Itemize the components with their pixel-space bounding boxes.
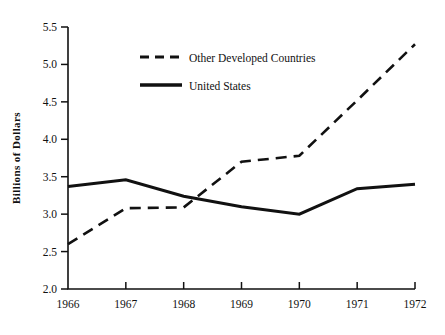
legend-label-2: United States xyxy=(189,80,251,92)
series-line-other-developed-countries xyxy=(68,44,415,244)
y-tick-label: 2.5 xyxy=(43,246,58,258)
chart-container: 2.02.53.03.54.04.55.05.51966196719681969… xyxy=(0,0,445,335)
y-tick-label: 3.5 xyxy=(43,171,58,183)
legend-label-1: Other Developed Countries xyxy=(189,52,316,65)
x-tick-label: 1966 xyxy=(57,298,80,310)
x-tick-label: 1972 xyxy=(404,298,427,310)
x-tick-label: 1967 xyxy=(114,298,137,310)
line-chart: 2.02.53.03.54.04.55.05.51966196719681969… xyxy=(0,0,445,335)
x-tick-label: 1969 xyxy=(230,298,253,310)
y-tick-label: 5.5 xyxy=(43,21,58,33)
y-axis-title: Billions of Dollars xyxy=(10,112,22,204)
x-tick-label: 1968 xyxy=(172,298,195,310)
y-tick-label: 4.0 xyxy=(43,133,58,145)
x-tick-label: 1970 xyxy=(288,298,311,310)
y-tick-label: 5.0 xyxy=(43,58,58,70)
x-tick-label: 1971 xyxy=(346,298,369,310)
y-tick-label: 4.5 xyxy=(43,96,58,108)
series-line-united-states xyxy=(68,180,415,214)
y-tick-label: 3.0 xyxy=(43,208,58,220)
y-tick-label: 2.0 xyxy=(43,283,58,295)
axis-lines xyxy=(68,27,415,289)
